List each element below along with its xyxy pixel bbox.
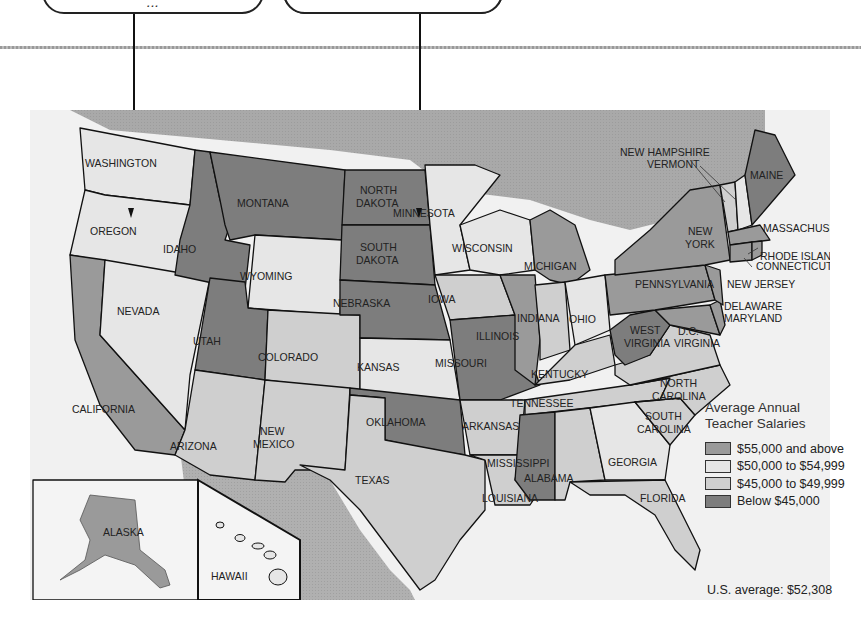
callout-right-visible xyxy=(283,0,503,14)
label-in: INDIANA xyxy=(517,312,560,324)
label-mt: MONTANA xyxy=(237,197,289,209)
label-nc-1: NORTH xyxy=(660,377,697,389)
us-teacher-salary-map: WASHINGTON OREGON CALIFORNIA NEVADA IDAH… xyxy=(30,110,830,600)
label-ut: UTAH xyxy=(193,335,221,347)
label-nd-1: NORTH xyxy=(360,184,397,196)
label-id: IDAHO xyxy=(163,243,196,255)
label-ri: RHODE ISLAND xyxy=(760,250,830,262)
label-nc-2: CAROLINA xyxy=(652,390,706,402)
callout-left-text: ... xyxy=(44,0,262,10)
label-nj: NEW JERSEY xyxy=(727,278,795,290)
label-la: LOUISIANA xyxy=(482,492,538,504)
label-pa: PENNSYLVANIA xyxy=(635,278,714,290)
label-nh: NEW HAMPSHIRE xyxy=(620,146,710,158)
label-co: COLORADO xyxy=(258,351,318,363)
legend-label: Below $45,000 xyxy=(737,494,820,508)
legend-label: $45,000 to $49,999 xyxy=(737,477,845,491)
legend-item-below-45k: Below $45,000 xyxy=(705,493,855,511)
label-ks: KANSAS xyxy=(357,361,400,373)
divider-rule xyxy=(0,46,861,49)
label-ak: ALASKA xyxy=(103,526,144,538)
label-oh: OHIO xyxy=(569,313,596,325)
label-wi: WISCONSIN xyxy=(452,242,513,254)
legend-title-line2: Teacher Salaries xyxy=(705,416,855,432)
label-al: ALABAMA xyxy=(524,472,574,484)
legend-item-55k-above: $55,000 and above xyxy=(705,440,855,458)
legend-item-50k-55k: $50,000 to $54,999 xyxy=(705,458,855,476)
label-nm-2: MEXICO xyxy=(253,438,294,450)
label-az: ARIZONA xyxy=(170,440,217,452)
us-average-label: U.S. average: $52,308 xyxy=(707,583,832,597)
label-ky: KENTUCKY xyxy=(531,368,588,380)
label-vt: VERMONT xyxy=(647,158,700,170)
label-sc-2: CAROLINA xyxy=(637,423,691,435)
label-ca: CALIFORNIA xyxy=(72,403,135,415)
legend-swatch xyxy=(705,442,731,455)
label-ma: MASSACHUSETTS xyxy=(763,222,830,234)
label-ny-2: YORK xyxy=(685,238,715,250)
label-dc: D.C. xyxy=(678,325,699,337)
legend: Average Annual Teacher Salaries $55,000 … xyxy=(705,400,855,510)
label-nm-1: NEW xyxy=(260,425,285,437)
label-hi: HAWAII xyxy=(211,570,248,582)
label-ms: MISSISSIPPI xyxy=(487,457,549,469)
label-ga: GEORGIA xyxy=(608,456,657,468)
label-sd-1: SOUTH xyxy=(360,241,397,253)
label-va: VIRGINIA xyxy=(674,337,720,349)
label-wy: WYOMING xyxy=(240,270,293,282)
label-sc-1: SOUTH xyxy=(645,410,682,422)
label-sd-2: DAKOTA xyxy=(356,254,398,266)
callout-left: ... xyxy=(42,0,264,14)
label-mn: MINNESOTA xyxy=(393,207,455,219)
label-ok: OKLAHOMA xyxy=(366,416,426,428)
legend-label: $55,000 and above xyxy=(737,442,844,456)
label-il: ILLINOIS xyxy=(476,330,519,342)
label-wv-2: VIRGINIA xyxy=(624,337,670,349)
label-tn: TENNESSEE xyxy=(510,397,574,409)
label-mo: MISSOURI xyxy=(435,357,487,369)
legend-label: $50,000 to $54,999 xyxy=(737,459,845,473)
label-mi: MICHIGAN xyxy=(524,260,577,272)
label-md: MARYLAND xyxy=(724,312,783,324)
legend-swatch xyxy=(705,477,731,490)
legend-title: Average Annual Teacher Salaries xyxy=(705,400,855,432)
legend-item-45k-50k: $45,000 to $49,999 xyxy=(705,475,855,493)
label-fl: FLORIDA xyxy=(640,492,686,504)
legend-swatch xyxy=(705,460,731,473)
label-ar: ARKANSAS xyxy=(462,420,519,432)
label-ia: IOWA xyxy=(428,293,456,305)
legend-title-line1: Average Annual xyxy=(705,400,855,416)
state-mississippi xyxy=(515,412,555,500)
label-ne: NEBRASKA xyxy=(333,297,390,309)
label-nv: NEVADA xyxy=(117,305,159,317)
label-or: OREGON xyxy=(90,225,137,237)
label-me: MAINE xyxy=(750,169,783,181)
label-tx: TEXAS xyxy=(355,474,389,486)
legend-swatch xyxy=(705,495,731,508)
label-ny-1: NEW xyxy=(688,225,713,237)
label-wa: WASHINGTON xyxy=(85,157,157,169)
label-wv-1: WEST xyxy=(630,324,661,336)
state-connecticut xyxy=(730,242,752,262)
label-de: DELAWARE xyxy=(724,300,782,312)
